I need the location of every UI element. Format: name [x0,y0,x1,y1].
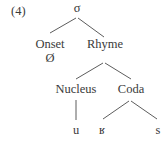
node-nucleus: Nucleus [56,82,97,96]
node-sigma: σ [74,1,81,15]
example-number: (4) [11,4,26,18]
branch-coda-s [131,101,157,119]
segment-u: u [73,123,79,137]
branch-rhyme-nucleus [76,63,103,79]
segment-r: ʁ [99,123,105,137]
branch-sigma-rhyme [78,18,104,37]
branch-coda-r [103,101,129,119]
branch-sigma-onset [50,18,76,33]
node-coda: Coda [118,82,144,96]
onset-empty: Ø [45,51,54,65]
tree-branches [0,0,167,142]
segment-s: s [156,123,161,137]
node-rhyme: Rhyme [87,37,123,51]
branch-rhyme-coda [105,63,131,79]
node-onset: Onset [35,37,64,51]
